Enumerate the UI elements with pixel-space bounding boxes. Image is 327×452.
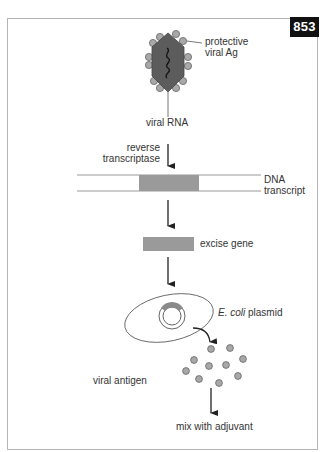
label-line: reverse xyxy=(103,142,160,153)
label-plasmid: plasmid xyxy=(245,307,282,318)
gene-block-icon xyxy=(143,237,194,251)
label-viral-rna: viral RNA xyxy=(146,117,188,128)
label-ecoli-italic: E. coli xyxy=(218,307,245,318)
vaccine-production-diagram xyxy=(0,0,327,452)
label-line: protective xyxy=(205,36,248,47)
label-ecoli-plasmid: E. coli plasmid xyxy=(218,307,282,318)
virus-icon xyxy=(145,30,191,92)
label-mix-with-adjuvant: mix with adjuvant xyxy=(176,421,253,432)
label-line: viral Ag xyxy=(205,47,248,58)
viral-antigen-dots-icon xyxy=(183,345,247,387)
dna-transcript-icon xyxy=(77,175,261,191)
leader-line-protective xyxy=(187,41,202,43)
label-line: transcriptase xyxy=(103,153,160,164)
label-protective-viral-ag: protective viral Ag xyxy=(205,36,248,58)
label-dna-transcript: DNA transcript xyxy=(264,174,305,196)
label-viral-antigen: viral antigen xyxy=(93,375,147,386)
label-line: DNA xyxy=(264,174,305,185)
label-excise-gene: excise gene xyxy=(200,238,253,249)
label-reverse-transcriptase: reverse transcriptase xyxy=(103,142,160,164)
ecoli-cell-icon xyxy=(120,286,218,350)
label-line: transcript xyxy=(264,185,305,196)
